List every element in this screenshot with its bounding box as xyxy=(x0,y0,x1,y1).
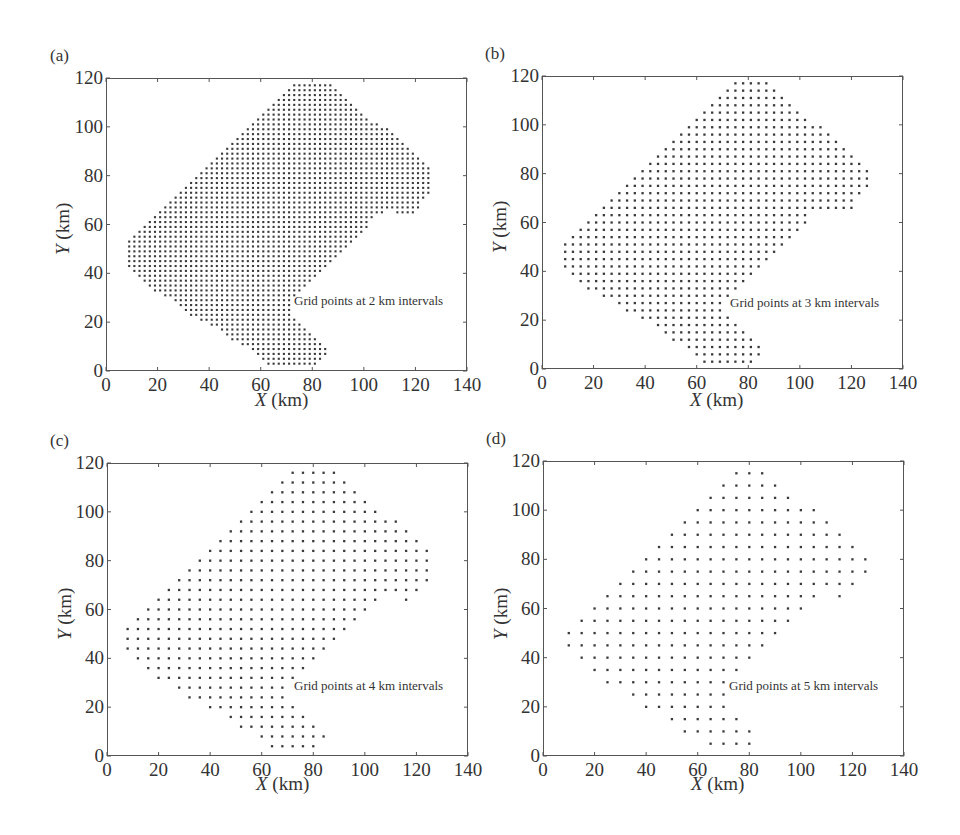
grid-point xyxy=(709,693,711,695)
grid-point xyxy=(735,484,737,486)
grid-point xyxy=(645,583,647,585)
grid-point xyxy=(684,595,686,597)
grid-point xyxy=(684,570,686,572)
grid-point xyxy=(787,497,789,499)
grid-point xyxy=(684,669,686,671)
grid-point xyxy=(709,521,711,523)
grid-point xyxy=(568,644,570,646)
grid-point xyxy=(632,607,634,609)
grid-point xyxy=(658,558,660,560)
grid-point xyxy=(722,595,724,597)
grid-point xyxy=(722,743,724,745)
grid-point xyxy=(671,644,673,646)
grid-point xyxy=(606,669,608,671)
x-tick-label: 120 xyxy=(838,760,867,779)
grid-point xyxy=(825,558,827,560)
grid-point xyxy=(774,546,776,548)
grid-point xyxy=(697,681,699,683)
grid-point xyxy=(709,497,711,499)
grid-point xyxy=(709,718,711,720)
grid-point xyxy=(735,632,737,634)
grid-point xyxy=(748,632,750,634)
grid-point xyxy=(838,558,840,560)
grid-point xyxy=(697,534,699,536)
grid-point xyxy=(825,546,827,548)
grid-point xyxy=(761,583,763,585)
grid-point xyxy=(593,644,595,646)
grid-point xyxy=(697,570,699,572)
grid-point xyxy=(735,718,737,720)
grid-point xyxy=(671,570,673,572)
grid-point xyxy=(735,657,737,659)
grid-point xyxy=(606,620,608,622)
grid-point xyxy=(697,706,699,708)
grid-point xyxy=(709,657,711,659)
grid-point xyxy=(645,644,647,646)
grid-point xyxy=(761,632,763,634)
y-tick-label: 100 xyxy=(512,500,541,519)
y-tick-label: 40 xyxy=(521,648,540,667)
grid-point xyxy=(825,583,827,585)
grid-point xyxy=(787,521,789,523)
x-axis-label: X (km) xyxy=(691,773,744,795)
grid-point xyxy=(787,620,789,622)
grid-point xyxy=(632,595,634,597)
grid-point xyxy=(864,558,866,560)
grid-point xyxy=(800,595,802,597)
grid-point xyxy=(851,558,853,560)
grid-point xyxy=(581,632,583,634)
grid-point xyxy=(748,534,750,536)
y-axis-label: Y (km) xyxy=(490,588,512,640)
grid-point xyxy=(658,681,660,683)
grid-point xyxy=(735,546,737,548)
grid-point xyxy=(748,730,750,732)
x-tick-label: 20 xyxy=(585,760,604,779)
grid-point xyxy=(748,583,750,585)
grid-point xyxy=(684,644,686,646)
grid-point xyxy=(671,657,673,659)
grid-point xyxy=(632,620,634,622)
grid-point xyxy=(787,509,789,511)
grid-point xyxy=(800,546,802,548)
grid-point xyxy=(735,558,737,560)
grid-point xyxy=(645,595,647,597)
grid-point xyxy=(735,620,737,622)
grid-point xyxy=(671,583,673,585)
grid-point xyxy=(632,644,634,646)
grid-point xyxy=(787,595,789,597)
grid-point xyxy=(722,521,724,523)
grid-point xyxy=(593,607,595,609)
grid-point xyxy=(774,534,776,536)
y-tick-label: 20 xyxy=(521,697,540,716)
y-tick-label: 120 xyxy=(512,451,541,470)
grid-point xyxy=(761,620,763,622)
grid-point xyxy=(658,546,660,548)
grid-point xyxy=(851,583,853,585)
grid-point xyxy=(684,558,686,560)
grid-point xyxy=(684,693,686,695)
grid-point xyxy=(748,546,750,548)
grid-point xyxy=(709,534,711,536)
grid-point xyxy=(722,484,724,486)
grid-point xyxy=(632,570,634,572)
grid-point xyxy=(684,583,686,585)
grid-point xyxy=(761,472,763,474)
grid-point xyxy=(748,509,750,511)
grid-point xyxy=(722,534,724,536)
grid-point xyxy=(671,693,673,695)
grid-point xyxy=(838,546,840,548)
grid-point xyxy=(671,669,673,671)
grid-point xyxy=(825,521,827,523)
grid-point xyxy=(645,570,647,572)
grid-point xyxy=(722,657,724,659)
grid-point xyxy=(697,693,699,695)
grid-point xyxy=(722,570,724,572)
grid-point xyxy=(774,558,776,560)
grid-point xyxy=(632,693,634,695)
grid-point xyxy=(709,644,711,646)
grid-point xyxy=(761,607,763,609)
grid-point xyxy=(606,657,608,659)
y-tick-label: 0 xyxy=(531,746,541,765)
grid-point xyxy=(658,706,660,708)
grid-point xyxy=(709,583,711,585)
